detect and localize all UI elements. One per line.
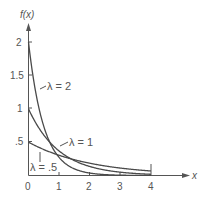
y-axis-arrow-icon bbox=[26, 23, 31, 31]
annotation-lambda-2: λ = 2 bbox=[47, 80, 71, 92]
annotation-arrow-lambda-1 bbox=[60, 142, 68, 146]
curve-lambda-2 bbox=[29, 42, 151, 175]
x-axis-label: x bbox=[191, 170, 198, 181]
y-tick-label-1.5: 1.5 bbox=[10, 70, 24, 81]
y-axis-label: f(x) bbox=[20, 9, 34, 20]
y-tick-label-0.5: .5 bbox=[15, 136, 24, 147]
x-axis-arrow-icon bbox=[182, 173, 190, 178]
x-tick-label-1: 1 bbox=[56, 181, 62, 192]
x-tick-label-4: 4 bbox=[148, 181, 154, 192]
x-tick-label-3: 3 bbox=[117, 181, 123, 192]
x-tick-label-0: 0 bbox=[25, 181, 31, 192]
annotation-lambda-0.5: λ = .5 bbox=[30, 161, 57, 173]
y-tick-label-2: 2 bbox=[16, 37, 22, 48]
annotation-lambda-1: λ = 1 bbox=[69, 136, 93, 148]
exponential-density-chart: f(x) x 2 1.5 1 .5 0 1 2 3 4 λ = 2 λ = 1 … bbox=[0, 0, 200, 199]
y-tick-label-1: 1 bbox=[17, 103, 23, 114]
x-tick-label-2: 2 bbox=[86, 181, 92, 192]
annotation-arrow-lambda-2 bbox=[40, 86, 46, 89]
